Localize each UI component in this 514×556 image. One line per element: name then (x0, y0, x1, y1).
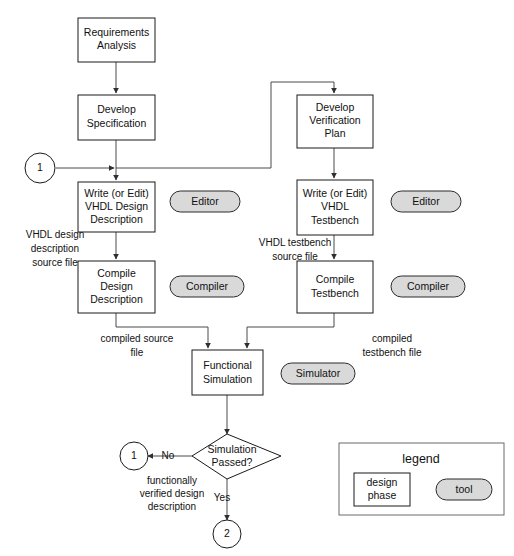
edge-compile-testbench-to-simulation (247, 313, 334, 348)
vhdl-design-flow-diagram: Requirements Analysis Develop Specificat… (0, 0, 514, 556)
vhdl-testbench-source-line2: source file (272, 251, 318, 262)
editor-testbench-label: Editor (412, 195, 440, 207)
node-simulation-passed-decision[interactable]: Simulation Passed? (192, 434, 281, 479)
compiled-testbench-line2: testbench file (363, 347, 422, 358)
compile-testbench-label-line1: Compile (316, 273, 355, 285)
connector-circle-1-no[interactable]: 1 (120, 442, 148, 470)
write-vhdl-testbench-label-line3: Testbench (311, 214, 359, 226)
decision-branch-yes-label: Yes (214, 492, 230, 503)
compile-design-label-line1: Compile (97, 267, 136, 279)
legend-tool-label: tool (456, 483, 473, 495)
functionally-verified-line3: description (148, 501, 196, 512)
label-vhdl-design-source-file: VHDL design description source file (26, 229, 85, 268)
legend-design-phase-line2: phase (368, 489, 397, 501)
compile-testbench-label-line2: Testbench (311, 287, 359, 299)
legend-panel: legend design phase tool (339, 443, 504, 515)
write-vhdl-design-label-line2: VHDL Design (85, 200, 148, 212)
node-functional-simulation[interactable]: Functional Simulation (192, 350, 263, 395)
functionally-verified-line1: functionally (147, 475, 197, 486)
label-compiled-source-file: compiled source file (101, 333, 174, 358)
tool-compiler-testbench[interactable]: Compiler (391, 276, 465, 297)
connector-1-no-label: 1 (131, 449, 137, 461)
connector-circle-2-yes[interactable]: 2 (213, 520, 241, 548)
simulation-passed-label-line1: Simulation (207, 443, 256, 455)
connector-1-left-label: 1 (37, 161, 43, 173)
compiled-source-line2: file (131, 347, 144, 358)
node-develop-verification-plan[interactable]: Develop Verification Plan (297, 95, 373, 148)
develop-verification-label-line3: Plan (324, 127, 345, 139)
tool-editor-testbench[interactable]: Editor (391, 191, 461, 212)
legend-title-label: legend (402, 452, 440, 466)
functionally-verified-line2: verified design (140, 488, 204, 499)
node-compile-design-description[interactable]: Compile Design Description (78, 261, 155, 313)
compiler-testbench-label: Compiler (407, 280, 450, 292)
label-vhdl-testbench-source-file: VHDL testbench source file (259, 237, 331, 262)
simulation-passed-label-line2: Passed? (212, 456, 253, 468)
node-requirements-analysis[interactable]: Requirements Analysis (78, 18, 155, 62)
vhdl-design-source-line1: VHDL design (26, 229, 85, 240)
compile-design-label-line3: Description (90, 293, 143, 305)
flowchart-canvas: Requirements Analysis Develop Specificat… (0, 0, 514, 556)
vhdl-design-source-line2: description (31, 243, 79, 254)
requirements-analysis-label-line2: Analysis (97, 39, 136, 51)
write-vhdl-design-label-line1: Write (or Edit) (84, 187, 149, 199)
tool-simulator[interactable]: Simulator (281, 363, 355, 384)
node-develop-specification[interactable]: Develop Specification (78, 95, 155, 140)
label-compiled-testbench-file: compiled testbench file (363, 333, 422, 358)
compiler-design-label: Compiler (186, 280, 229, 292)
connector-circle-1-left[interactable]: 1 (25, 153, 55, 183)
legend-design-phase-line1: design (367, 476, 398, 488)
develop-verification-label-line1: Develop (316, 101, 355, 113)
write-vhdl-testbench-label-line2: VHDL (321, 200, 349, 212)
develop-verification-label-line2: Verification (309, 114, 361, 126)
simulator-label: Simulator (296, 367, 341, 379)
tool-editor-design[interactable]: Editor (170, 191, 240, 212)
functional-simulation-label-line1: Functional (203, 359, 251, 371)
label-functionally-verified-design: functionally verified design description (140, 475, 204, 512)
vhdl-design-source-line3: source file (32, 257, 78, 268)
compile-design-label-line2: Design (100, 280, 133, 292)
connector-2-yes-label: 2 (224, 527, 230, 539)
node-write-vhdl-testbench[interactable]: Write (or Edit) VHDL Testbench (297, 180, 373, 235)
functional-simulation-label-line2: Simulation (203, 373, 252, 385)
develop-specification-label-line1: Develop (97, 103, 136, 115)
node-compile-testbench[interactable]: Compile Testbench (297, 261, 373, 313)
compiled-testbench-line1: compiled (372, 333, 412, 344)
decision-branch-no-label: No (162, 450, 175, 461)
develop-specification-label-line2: Specification (87, 117, 147, 129)
compiled-source-line1: compiled source (101, 333, 174, 344)
tool-compiler-design[interactable]: Compiler (170, 276, 244, 297)
requirements-analysis-label-line1: Requirements (84, 26, 149, 38)
node-write-vhdl-design-description[interactable]: Write (or Edit) VHDL Design Description (78, 182, 155, 232)
write-vhdl-design-label-line3: Description (90, 213, 143, 225)
editor-design-label: Editor (191, 195, 219, 207)
write-vhdl-testbench-label-line1: Write (or Edit) (303, 187, 368, 199)
vhdl-testbench-source-line1: VHDL testbench (259, 237, 331, 248)
